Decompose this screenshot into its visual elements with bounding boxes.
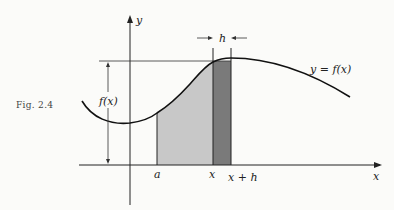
strip-x-to-x-plus-h	[213, 61, 231, 165]
h-arrow-right-icon	[231, 36, 236, 40]
x-axis-arrow-icon	[374, 162, 382, 168]
x-label: x	[209, 168, 216, 181]
x-plus-h-label: x + h	[228, 171, 258, 184]
x-axis-end-label: x	[373, 170, 380, 183]
fx-arrow-down-icon	[106, 159, 110, 164]
figure-2-4: y x x y = f(x) f(x) a x x + h h Fig. 2.4	[0, 0, 394, 210]
curve-label: y = f(x)	[309, 63, 351, 76]
a-label: a	[154, 168, 161, 181]
y-axis-label: y	[135, 14, 143, 27]
h-arrow-left-icon	[208, 36, 213, 40]
y-axis-arrow-icon	[127, 15, 133, 23]
figure-caption: Fig. 2.4	[16, 100, 53, 110]
fx-label: f(x)	[98, 95, 118, 108]
fx-arrow-up-icon	[106, 62, 110, 67]
area-under-curve-diagram: y x x y = f(x) f(x) a x x + h h Fig. 2.4	[0, 0, 394, 210]
h-label: h	[219, 32, 226, 45]
area-a-to-x	[157, 62, 213, 165]
